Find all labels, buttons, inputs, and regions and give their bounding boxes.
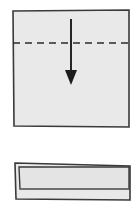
panel-after-fold (15, 163, 130, 200)
paper-folded-flap (19, 167, 129, 189)
origami-diagram-svg: Origami fold step diagram (0, 0, 140, 208)
panel-before-fold (13, 10, 129, 127)
origami-diagram-root: Origami fold step diagram (0, 0, 140, 208)
